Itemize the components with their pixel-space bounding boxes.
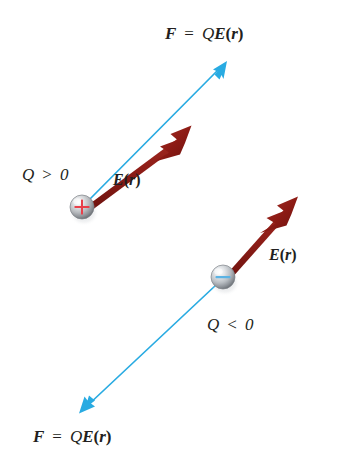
paren-close-field-bot: )	[291, 246, 296, 263]
field-symbol-top: E	[214, 24, 225, 43]
equals-sign-bot: =	[52, 427, 62, 446]
force-vector-positive-charge	[86, 61, 227, 203]
negative-charge-sphere	[211, 265, 235, 289]
field-symbol-bot: E	[82, 427, 93, 446]
label-field-positive: E(r)	[113, 172, 141, 188]
zero-positive: 0	[60, 165, 69, 184]
label-field-negative: E(r)	[269, 247, 297, 263]
label-charge-positive: Q>0	[22, 166, 68, 183]
label-charge-negative: Q<0	[207, 316, 253, 333]
label-force-positive: F=QE(r)	[165, 25, 244, 42]
force-symbol-top: F	[165, 24, 176, 43]
paren-close-top: )	[238, 24, 244, 43]
charge-q-positive: Q	[22, 165, 34, 184]
less-than-sign: <	[227, 315, 237, 334]
minus-sign-icon	[216, 276, 231, 278]
paren-close-field-top: )	[135, 171, 140, 188]
charge-symbol-bot: Q	[70, 427, 82, 446]
force-vector-negative-charge	[79, 285, 216, 414]
position-symbol-top: r	[231, 24, 238, 43]
positive-charge-sphere	[70, 195, 94, 219]
greater-than-sign: >	[42, 165, 52, 184]
field-symbol-near-negative: E	[269, 246, 280, 263]
force-symbol-bot: F	[33, 427, 44, 446]
paren-close-bot: )	[106, 427, 112, 446]
charge-q-negative: Q	[207, 315, 219, 334]
field-vector-negative-charge	[226, 197, 298, 280]
field-symbol-near-positive: E	[113, 171, 124, 188]
charge-symbol-top: Q	[202, 24, 214, 43]
label-force-negative: F=QE(r)	[33, 428, 112, 445]
field-vector-positive-charge	[88, 126, 192, 211]
field-force-vector-diagram	[0, 0, 338, 468]
physics-figure-canvas: F=QE(r) Q>0 E(r) E(r) Q<0 F=QE(r)	[0, 0, 338, 468]
equals-sign-top: =	[184, 24, 194, 43]
zero-negative: 0	[245, 315, 254, 334]
position-symbol-bot: r	[99, 427, 106, 446]
